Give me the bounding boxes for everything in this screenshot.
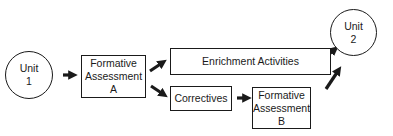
unit-1-label-line1: Unit <box>20 62 39 75</box>
fa-a-label-line2: Assessment <box>85 70 142 83</box>
formative-assessment-b-node: Formative Assessment B <box>252 87 311 129</box>
enrichment-label: Enrichment Activities <box>202 55 299 68</box>
correctives-node: Correctives <box>170 86 232 111</box>
unit-2-node: Unit 2 <box>330 9 377 56</box>
correctives-label: Correctives <box>174 92 227 105</box>
fa-b-label-line3: B <box>278 115 285 128</box>
unit-2-label-line2: 2 <box>351 33 357 46</box>
fa-a-label-line1: Formative <box>90 57 137 70</box>
fa-b-label-line2: Assessment <box>253 102 310 115</box>
arrow-fa-a-to-enrichment <box>150 63 162 71</box>
formative-assessment-a-node: Formative Assessment A <box>81 55 146 98</box>
unit-1-label-line2: 1 <box>26 75 32 88</box>
enrichment-activities-node: Enrichment Activities <box>170 48 331 75</box>
unit-1-node: Unit 1 <box>5 51 53 99</box>
arrow-fa-a-to-correctives <box>151 86 163 94</box>
fa-b-label-line1: Formative <box>258 89 305 102</box>
fa-a-label-line3: A <box>110 83 117 96</box>
unit-2-label-line1: Unit <box>344 20 363 33</box>
